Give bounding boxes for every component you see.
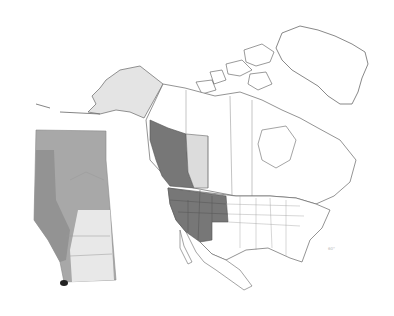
occurrence-point <box>60 280 68 286</box>
arctic-islands <box>196 44 274 94</box>
scale-label: 60° <box>328 246 335 251</box>
greenland <box>276 26 368 104</box>
alberta-inset <box>34 130 116 286</box>
north-america-map <box>0 0 394 316</box>
